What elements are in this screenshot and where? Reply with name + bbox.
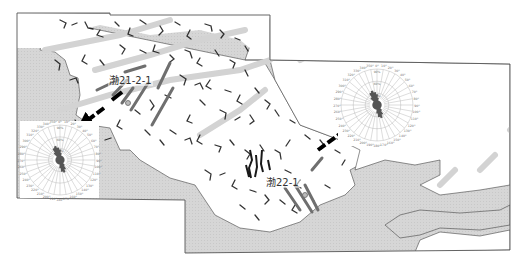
svg-text:60%: 60% [374, 82, 381, 86]
svg-text:320°: 320° [31, 129, 39, 133]
svg-text:50°: 50° [87, 133, 93, 137]
svg-text:120°: 120° [90, 178, 98, 182]
svg-text:270°: 270° [333, 104, 341, 108]
svg-text:210°: 210° [37, 192, 45, 196]
svg-text:180°: 180° [373, 144, 381, 148]
svg-text:160°: 160° [69, 195, 77, 199]
svg-text:60°: 60° [91, 139, 97, 143]
svg-text:260°: 260° [334, 110, 342, 114]
svg-text:280°: 280° [334, 97, 342, 101]
svg-text:100°: 100° [413, 110, 421, 114]
svg-text:320°: 320° [347, 73, 355, 77]
svg-text:110°: 110° [93, 172, 101, 176]
svg-text:260°: 260° [18, 165, 26, 169]
svg-text:80°: 80° [96, 152, 102, 156]
well-marker-bz22 [303, 193, 308, 198]
svg-text:310°: 310° [26, 133, 34, 137]
svg-text:310°: 310° [343, 78, 351, 82]
svg-text:60%: 60% [57, 138, 64, 142]
svg-text:180°: 180° [56, 198, 64, 202]
well-label-bz21-2-1: 渤21-2-1 [108, 75, 153, 86]
svg-text:90°: 90° [96, 159, 102, 163]
svg-text:120°: 120° [408, 124, 416, 128]
svg-text:40°: 40° [400, 73, 406, 77]
svg-text:170°: 170° [63, 197, 71, 201]
svg-text:80°: 80° [414, 97, 420, 101]
svg-text:290°: 290° [336, 90, 344, 94]
svg-text:10°: 10° [381, 64, 387, 68]
rose-diagram-east: 0°10°20°30°40°50°60°70°80°90°100°110°120… [333, 64, 420, 148]
svg-text:270°: 270° [17, 159, 25, 163]
svg-text:230°: 230° [343, 129, 351, 133]
svg-text:290°: 290° [20, 145, 28, 149]
svg-text:170°: 170° [380, 143, 388, 147]
svg-text:20°: 20° [388, 66, 394, 70]
svg-text:40°: 40° [82, 129, 88, 133]
svg-text:130°: 130° [86, 184, 94, 188]
svg-text:240°: 240° [339, 124, 347, 128]
svg-text:300°: 300° [339, 84, 347, 88]
svg-text:250°: 250° [20, 172, 28, 176]
svg-text:190°: 190° [49, 197, 57, 201]
svg-text:130°: 130° [404, 129, 412, 133]
svg-text:220°: 220° [31, 188, 39, 192]
svg-text:0°: 0° [375, 64, 379, 68]
svg-text:50°: 50° [405, 78, 411, 82]
svg-text:90°: 90° [414, 104, 420, 108]
svg-text:160°: 160° [387, 141, 395, 145]
svg-text:70°: 70° [94, 145, 100, 149]
well-label-bz22-1: 渤22-1 [265, 177, 300, 188]
svg-text:20°: 20° [71, 122, 77, 126]
map-canvas: 0°10°20°30°40°50°60°70°80°90°100°110°120… [0, 0, 527, 268]
svg-text:280°: 280° [18, 152, 26, 156]
well-marker-bz21 [126, 101, 131, 106]
svg-text:0°: 0° [58, 120, 62, 124]
svg-text:90%: 90% [374, 70, 381, 74]
rose-diagram-west: 0°10°20°30°40°50°60°70°80°90°100°110°120… [17, 120, 102, 202]
svg-text:190°: 190° [366, 143, 374, 147]
svg-text:250°: 250° [336, 117, 344, 121]
svg-text:10°: 10° [64, 120, 70, 124]
svg-text:230°: 230° [26, 184, 34, 188]
svg-text:300°: 300° [22, 139, 30, 143]
svg-text:350°: 350° [366, 64, 374, 68]
svg-text:220°: 220° [347, 134, 355, 138]
svg-text:90%: 90% [57, 126, 64, 130]
svg-text:70°: 70° [412, 90, 418, 94]
svg-text:100°: 100° [95, 165, 103, 169]
svg-text:210°: 210° [353, 138, 361, 142]
svg-text:110°: 110° [411, 117, 419, 121]
svg-text:350°: 350° [49, 120, 57, 124]
svg-text:60°: 60° [409, 84, 415, 88]
svg-text:240°: 240° [22, 178, 30, 182]
